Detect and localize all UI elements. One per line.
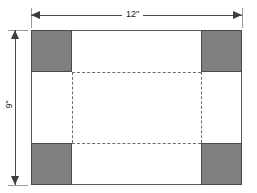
corner-square-bottom-right: [201, 143, 242, 185]
arrow-right-icon: [233, 11, 242, 19]
fold-line-bottom: [72, 143, 201, 144]
arrow-up-icon: [11, 30, 19, 39]
diagram-canvas: 12" 9": [0, 0, 257, 193]
arrow-down-icon: [11, 176, 19, 185]
fold-line-top: [72, 72, 201, 73]
corner-square-bottom-left: [31, 143, 72, 185]
height-dimension-line: [15, 30, 16, 185]
fold-line-left: [72, 72, 73, 143]
witness-line-bottom: [8, 185, 28, 186]
fold-line-right: [201, 72, 202, 143]
corner-square-top-right: [201, 30, 242, 72]
witness-line-right: [242, 8, 243, 28]
width-dimension-label: 12": [122, 9, 143, 20]
height-dimension-label: 9": [4, 97, 15, 111]
arrow-left-icon: [31, 11, 40, 19]
corner-square-top-left: [31, 30, 72, 72]
